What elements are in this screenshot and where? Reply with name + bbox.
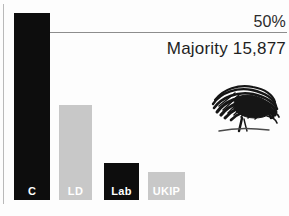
- bar-label-lab: Lab: [104, 185, 139, 197]
- election-bar-chart: 50% Majority 15,877 C LD Lab UKIP: [0, 0, 289, 216]
- bar-lab: Lab: [104, 163, 139, 200]
- bar-label-ukip: UKIP: [148, 185, 185, 197]
- bar-ukip: UKIP: [148, 172, 185, 200]
- bar-label-c: C: [14, 185, 50, 197]
- threshold-label: 50%: [253, 12, 286, 31]
- bar-c: C: [14, 13, 50, 200]
- conservative-oak-tree-logo: [205, 78, 281, 136]
- bar-ld: LD: [59, 105, 92, 200]
- plot-area: 50% Majority 15,877 C LD Lab UKIP: [0, 0, 289, 216]
- threshold-line-50-percent: [49, 32, 287, 33]
- majority-label: Majority 15,877: [167, 38, 286, 59]
- bar-label-ld: LD: [59, 185, 92, 197]
